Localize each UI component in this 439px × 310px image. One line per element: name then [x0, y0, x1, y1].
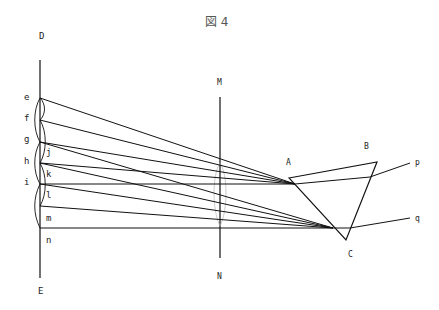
label-l: l: [46, 190, 51, 200]
label-i: i: [24, 177, 29, 187]
label-k: k: [46, 169, 52, 179]
label-C: C: [348, 250, 353, 259]
label-f: f: [24, 113, 29, 123]
label-E: E: [38, 286, 43, 296]
exit-rays: [295, 163, 410, 228]
label-q: q: [415, 214, 420, 223]
label-m: m: [46, 213, 51, 223]
label-j: j: [46, 147, 51, 157]
label-p: p: [415, 158, 420, 167]
label-h: h: [24, 156, 29, 166]
label-D: D: [39, 31, 44, 41]
label-n: n: [46, 235, 51, 245]
label-A: A: [286, 158, 291, 167]
label-N: N: [217, 272, 222, 281]
figure-caption: 図 4: [205, 15, 228, 29]
label-g: g: [24, 134, 29, 144]
label-e: e: [24, 92, 29, 102]
optics-diagram: 図 4 D E M N A B C: [0, 0, 439, 310]
lower-ray-bundle: [40, 142, 333, 228]
label-B: B: [364, 142, 369, 151]
label-M: M: [217, 78, 222, 87]
